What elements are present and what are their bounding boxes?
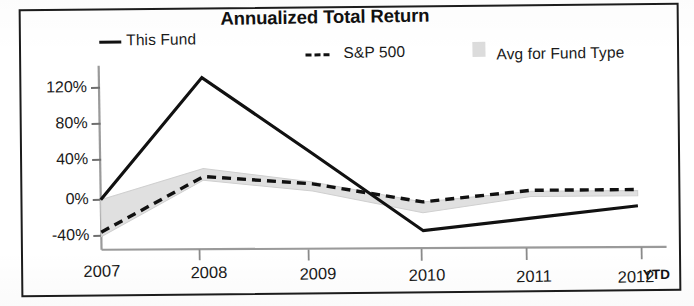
series-avg-for-fund-type-band [100,162,638,237]
plot-svg [0,0,694,306]
x-axis-line [102,241,667,256]
chart-area: Annualized Total Return This Fund S&P 50… [0,0,694,306]
chart-figure: Annualized Total Return This Fund S&P 50… [0,0,694,306]
x-axis-ticks [200,242,642,266]
series-this-fund-line [99,71,638,236]
